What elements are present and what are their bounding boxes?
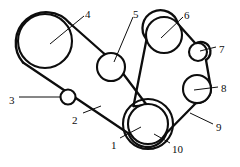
- callout-label-7: 7: [219, 44, 225, 55]
- callout-label-4: 4: [85, 9, 91, 20]
- callout-label-2: 2: [72, 115, 78, 126]
- callout-label-6: 6: [184, 10, 190, 21]
- belt-lower-right-run: [167, 103, 197, 133]
- callout-label-10: 10: [172, 144, 183, 155]
- callout-label-1: 1: [111, 140, 117, 151]
- belt-top-run: [70, 23, 105, 54]
- callout-label-3: 3: [9, 95, 15, 106]
- idler-pulley-small-left: [61, 90, 76, 105]
- diagram-canvas: [0, 0, 240, 167]
- pulley-right: [183, 75, 211, 103]
- idler-pulley-center: [97, 53, 125, 81]
- belt-routing-diagram: 1 2 3 4 5 6 7 8 9 10: [0, 0, 240, 167]
- large-pulley-upper-left: [18, 14, 72, 68]
- idler-pulley-small-right: [189, 43, 207, 61]
- leader-line-9: [190, 113, 213, 124]
- leader-line-5: [114, 17, 133, 62]
- callout-label-8: 8: [221, 83, 227, 94]
- callout-label-5: 5: [133, 9, 139, 20]
- callout-label-9: 9: [216, 122, 222, 133]
